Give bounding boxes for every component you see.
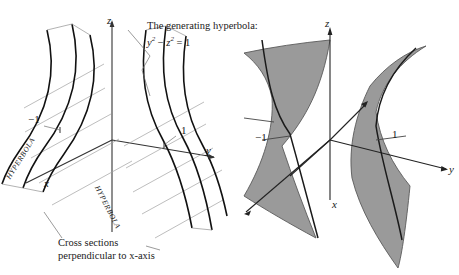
eq-equals-one: = 1 xyxy=(177,37,191,48)
eq-exp-z: 2 xyxy=(170,35,174,43)
right-sheet-gridlines xyxy=(124,102,223,238)
right-x-axis-label: x xyxy=(332,198,337,210)
hyperbolic-cylinder-figure: z y x −1 1 The generating hyperbola: y2 … xyxy=(0,0,459,275)
left-y-axis-label: y xyxy=(206,144,211,156)
left-z-axis-label: z xyxy=(107,14,111,26)
left-wireframe-diagram xyxy=(0,0,230,275)
left-x-axis-label: x xyxy=(44,177,49,189)
generating-hyperbola-equation: y2 − z2 = 1 xyxy=(147,35,190,48)
right-y-axis-label: y xyxy=(449,163,454,175)
eq-exp-y: 2 xyxy=(152,35,156,43)
left-tick-negative-one: −1 xyxy=(28,113,40,125)
eq-minus: − xyxy=(158,37,164,48)
right-z-axis-label: z xyxy=(325,17,329,29)
right-tick-negative-one: −1 xyxy=(255,131,267,143)
surface-sheet-right xyxy=(351,46,426,268)
right-tick-positive-one: 1 xyxy=(392,128,398,140)
left-sheet-gridlines xyxy=(24,64,132,205)
cross-sections-caption-line2: perpendicular to x-axis xyxy=(58,249,155,262)
right-sheet-edge-strokes xyxy=(146,26,212,230)
cross-sections-caption-line1: Cross sections xyxy=(58,236,118,249)
left-tick-positive-one: 1 xyxy=(181,124,187,136)
